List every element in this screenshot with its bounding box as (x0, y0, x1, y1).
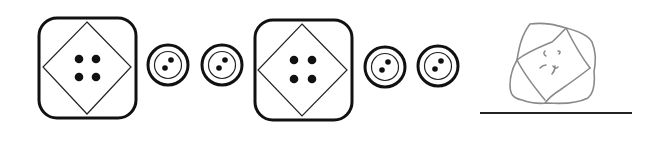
small-round-button-3 (365, 47, 405, 87)
small-round-button-4 (418, 46, 458, 86)
pattern-worksheet (0, 0, 671, 142)
handwritten-answer-sketch (510, 23, 595, 103)
large-square-button-1 (39, 18, 136, 118)
small-round-button-1 (148, 45, 188, 85)
pattern-canvas (0, 0, 671, 142)
small-round-button-2 (202, 45, 242, 85)
large-square-button-2 (255, 20, 352, 120)
